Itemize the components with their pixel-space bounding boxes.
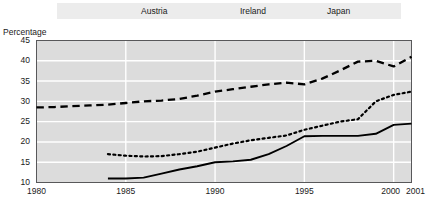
y-axis-tick-label: 40	[8, 56, 30, 65]
x-axis-tick-label: 1995	[291, 187, 317, 196]
plot-layer	[37, 41, 412, 183]
legend-label-ireland: Ireland	[240, 6, 266, 16]
y-axis-tick-label: 20	[8, 137, 30, 146]
y-axis-tick-label: 25	[8, 117, 30, 126]
y-axis-tick-label: 45	[8, 36, 30, 45]
legend-label-austria: Austria	[141, 6, 167, 16]
y-axis-tick-label: 35	[8, 77, 30, 86]
y-axis-tick-label: 30	[8, 97, 30, 106]
x-axis-tick-label: 1980	[24, 187, 50, 196]
legend-label-japan: Japan	[327, 6, 350, 16]
y-axis-tick-label: 15	[8, 158, 30, 167]
x-axis-tick-label: 2001	[403, 187, 429, 196]
x-axis-tick-label: 1985	[113, 187, 139, 196]
x-axis-tick-label: 1990	[202, 187, 228, 196]
x-axis-tick-label: 2000	[378, 187, 404, 196]
